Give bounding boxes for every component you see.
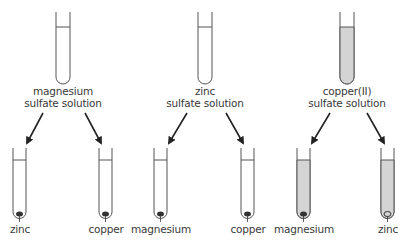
solution-label-line1: magnesium (33, 85, 93, 97)
test-tube-zinc (381, 148, 394, 222)
solution-label-line1: zinc (195, 85, 215, 97)
metal-label: magnesium (274, 223, 334, 235)
metal-label: magnesium (131, 223, 191, 235)
solution-label-line2: sulfate solution (166, 97, 243, 109)
metal-label: copper (88, 223, 123, 235)
solution-label-line1: copper(II) (323, 85, 372, 97)
arrow-icon (169, 113, 187, 143)
solution-label-line2: sulfate solution (308, 97, 385, 109)
group-zinc-sulfate (154, 12, 254, 222)
test-tube-copper (241, 148, 254, 222)
arrow-icon (312, 113, 330, 143)
metal-piece-magnesium (300, 212, 307, 217)
test-tube-magnesium (154, 148, 167, 222)
metal-piece-zinc (16, 212, 23, 217)
source-tube-magnesium-sulfate (56, 12, 70, 84)
group-copper-ii-sulfate (297, 12, 394, 222)
test-tube-zinc (13, 148, 26, 222)
solution-label-line2: sulfate solution (24, 97, 101, 109)
arrow-icon (226, 113, 243, 143)
metal-piece-magnesium (157, 212, 164, 217)
group-magnesium-sulfate (13, 12, 112, 222)
metal-label: copper (230, 223, 265, 235)
arrow-icon (27, 113, 43, 143)
metal-label: zinc (378, 223, 398, 235)
metal-piece-copper (102, 212, 109, 217)
source-tube-copper-ii-sulfate (340, 12, 354, 84)
metal-displacement-diagram (0, 0, 406, 240)
metal-label: zinc (10, 223, 30, 235)
test-tube-copper (99, 148, 112, 222)
source-tube-zinc-sulfate (198, 12, 212, 84)
test-tube-magnesium (297, 148, 310, 222)
arrow-icon (367, 113, 384, 143)
arrow-icon (85, 113, 101, 143)
metal-piece-copper (244, 212, 251, 217)
